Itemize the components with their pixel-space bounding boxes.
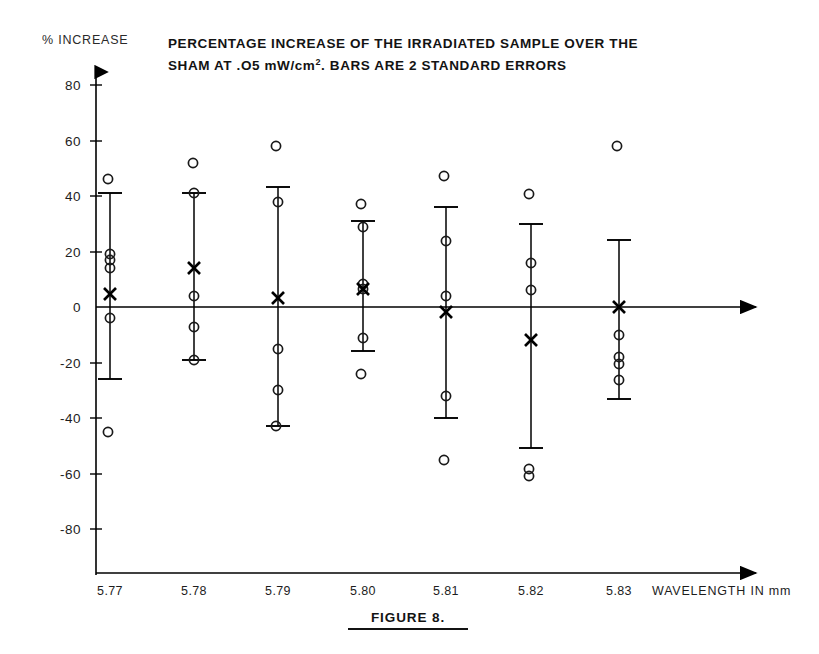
chart-title-line-2: SHAM AT .O5 mW/cm2. BARS ARE 2 STANDARD … <box>168 57 567 73</box>
chart-title-line-2-main: SHAM AT .O5 mW/cm <box>168 58 315 73</box>
series-group-581 <box>434 171 458 464</box>
y-tick-label-20: 20 <box>65 245 81 260</box>
y-tick-label-0: 0 <box>73 300 81 315</box>
y-tick-label-neg80: -80 <box>60 522 81 537</box>
chart-canvas: PERCENTAGE INCREASE OF THE IRRADIATED SA… <box>0 0 819 654</box>
series-group-583 <box>607 141 631 399</box>
y-tick-label-80: 80 <box>65 78 81 93</box>
data-point <box>188 158 197 167</box>
x-tick-label-579: 5.79 <box>265 584 291 598</box>
data-point <box>103 427 112 436</box>
y-tick-label-neg20: -20 <box>60 356 81 371</box>
series-group-578 <box>182 158 206 364</box>
figure-caption: FIGURE 8. <box>371 610 445 625</box>
figure-container: PERCENTAGE INCREASE OF THE IRRADIATED SA… <box>0 0 819 654</box>
x-tick-label-583: 5.83 <box>606 584 632 598</box>
data-point <box>103 174 112 183</box>
data-point <box>356 199 365 208</box>
y-axis-label: % INCREASE <box>42 33 129 47</box>
chart-title-line-2-tail: . BARS ARE 2 STANDARD ERRORS <box>321 58 567 73</box>
series-group-579 <box>266 141 290 430</box>
data-point <box>439 171 448 180</box>
x-axis-label: WAVELENGTH IN mm <box>652 584 791 598</box>
x-tick-label-582: 5.82 <box>518 584 544 598</box>
data-point <box>271 141 280 150</box>
y-tick-label-60: 60 <box>65 134 81 149</box>
x-tick-label-580: 5.80 <box>350 584 376 598</box>
y-tick-label-neg40: -40 <box>60 411 81 426</box>
series-group-580 <box>351 199 375 378</box>
data-point <box>612 141 621 150</box>
y-tick-label-40: 40 <box>65 189 81 204</box>
data-point <box>524 189 533 198</box>
x-tick-label-581: 5.81 <box>433 584 459 598</box>
data-point <box>439 455 448 464</box>
series-group-582 <box>519 189 543 480</box>
chart-title-line-1: PERCENTAGE INCREASE OF THE IRRADIATED SA… <box>168 36 638 51</box>
data-point <box>356 369 365 378</box>
y-tick-label-neg60: -60 <box>60 467 81 482</box>
series-group-577 <box>98 174 122 436</box>
x-tick-label-577: 5.77 <box>97 584 123 598</box>
x-tick-label-578: 5.78 <box>181 584 207 598</box>
x-tick-group: 5.77 5.78 5.79 5.80 5.81 5.82 5.83 WAVEL… <box>97 584 791 598</box>
